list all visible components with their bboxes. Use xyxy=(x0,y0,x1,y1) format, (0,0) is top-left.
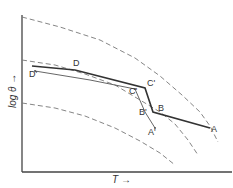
label-B: B xyxy=(158,103,164,113)
y-axis-label: log θ → xyxy=(7,74,18,108)
label-C: C' xyxy=(147,78,155,88)
middle-dashed-curve xyxy=(22,60,198,155)
upper-dashed-curve xyxy=(22,17,218,142)
label-B-prime: B' xyxy=(139,107,147,117)
diagram-canvas: D D' C' C' B B' A A' log θ → T → xyxy=(0,0,233,188)
thin-path-DprimeCprimeBprimeAprime xyxy=(35,71,155,128)
x-axis-label: T → xyxy=(112,174,131,185)
label-A-prime: A' xyxy=(148,127,156,137)
diagram-figure: D D' C' C' B B' A A' log θ → T → xyxy=(0,0,233,188)
label-D-prime: D' xyxy=(29,69,37,79)
label-A: A xyxy=(211,124,217,134)
label-C-prime: C' xyxy=(129,86,137,96)
label-D: D xyxy=(73,58,80,68)
